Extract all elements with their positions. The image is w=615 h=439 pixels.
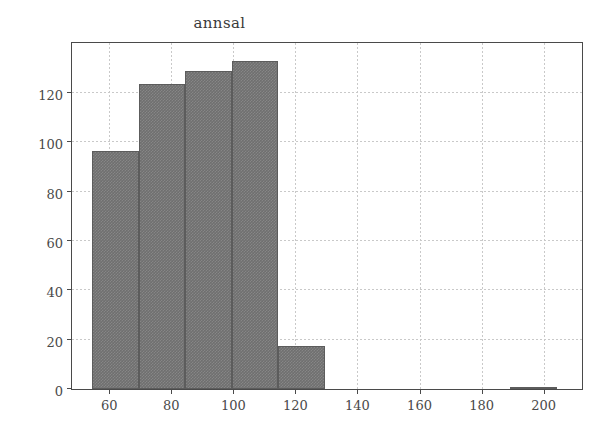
y-tick-label-120: 120 [38,87,63,102]
x-tick-label-80: 80 [163,398,180,413]
y-tick-label-20: 20 [46,334,63,349]
y-tick-mark-100 [67,141,72,142]
histogram-bar [232,61,279,389]
histogram-bar [510,387,557,389]
x-tick-label-120: 120 [283,398,308,413]
histogram-bar [185,71,232,389]
histogram-bar [139,84,185,389]
x-tick-mark-140 [357,389,358,394]
y-tick-mark-40 [67,289,72,290]
gridline-x-140 [357,43,358,389]
x-tick-label-60: 60 [101,398,118,413]
gridline-x-180 [482,43,483,389]
x-tick-mark-160 [420,389,421,394]
x-tick-label-160: 160 [407,398,432,413]
x-tick-mark-120 [295,389,296,394]
histogram-bar [278,346,325,389]
y-tick-label-60: 60 [46,235,63,250]
chart-title: annsal [0,14,615,32]
y-tick-label-0: 0 [55,384,63,399]
y-tick-mark-0 [67,388,72,389]
y-tick-mark-80 [67,191,72,192]
figure-canvas: annsal 020406080100120 60801001201401601… [0,0,615,439]
x-tick-label-140: 140 [345,398,370,413]
x-tick-label-100: 100 [221,398,246,413]
gridline-x-120 [295,43,296,389]
x-tick-label-200: 200 [531,398,556,413]
plot-area: 020406080100120 6080100120140160180200 [71,42,583,390]
y-tick-label-40: 40 [46,285,63,300]
histogram-bar [92,151,139,389]
gridline-x-160 [420,43,421,389]
x-tick-mark-100 [233,389,234,394]
x-tick-mark-80 [171,389,172,394]
x-tick-mark-60 [109,389,110,394]
y-tick-mark-20 [67,339,72,340]
y-tick-label-80: 80 [46,186,63,201]
y-tick-mark-60 [67,240,72,241]
y-tick-mark-120 [67,92,72,93]
x-tick-mark-180 [482,389,483,394]
y-tick-label-100: 100 [38,137,63,152]
x-tick-label-180: 180 [469,398,494,413]
chart-title-text: annsal [193,14,245,32]
x-tick-mark-200 [544,389,545,394]
gridline-x-200 [544,43,545,389]
